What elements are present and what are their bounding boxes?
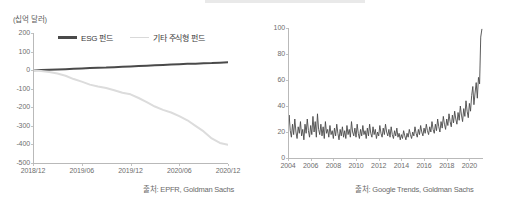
y-tick-label: 100	[261, 24, 285, 31]
x-tick-mark	[356, 159, 357, 161]
left-chart-svg	[33, 33, 228, 163]
x-axis-line	[288, 158, 483, 159]
y-tick-label: 0	[6, 66, 30, 73]
x-tick-mark	[228, 164, 229, 166]
y-tick-mark	[286, 132, 288, 133]
series-line	[288, 29, 482, 140]
x-tick-mark	[379, 159, 380, 161]
left-chart-source: 출처: EPFR, Goldman Sachs	[143, 183, 234, 194]
x-tick-label: 2020	[450, 162, 488, 169]
y-tick-label: 60	[261, 76, 285, 83]
series-line	[33, 62, 228, 70]
y-tick-label: 100	[6, 48, 30, 55]
y-tick-mark	[286, 106, 288, 107]
x-tick-label: 2020/12	[209, 167, 247, 174]
x-tick-mark	[311, 159, 312, 161]
x-tick-mark	[33, 164, 34, 166]
left-chart-axis-title: (십억 달러)	[13, 13, 47, 24]
y-tick-label: 40	[261, 102, 285, 109]
figure-container: (십억 달러) ESG 펀드 기타 주식형 펀드 2001000-100-200…	[0, 0, 518, 208]
x-tick-mark	[179, 164, 180, 166]
left-chart-plot-area	[33, 33, 228, 163]
y-tick-mark	[31, 33, 33, 34]
y-axis-line	[288, 28, 289, 159]
y-tick-label: -300	[6, 122, 30, 129]
series-line	[33, 70, 228, 145]
y-tick-label: 80	[261, 50, 285, 57]
y-tick-label: -400	[6, 140, 30, 147]
y-tick-mark	[31, 89, 33, 90]
panel-search-interest: 020406080100 200420062008201020122014201…	[259, 0, 518, 208]
y-axis-line	[33, 33, 34, 164]
x-tick-mark	[288, 159, 289, 161]
y-tick-mark	[31, 126, 33, 127]
y-tick-mark	[286, 54, 288, 55]
x-tick-label: 2020/06	[160, 167, 198, 174]
x-tick-label: 2018/12	[14, 167, 52, 174]
x-tick-mark	[333, 159, 334, 161]
y-tick-mark	[31, 52, 33, 53]
y-tick-mark	[286, 28, 288, 29]
right-chart-plot-area	[288, 28, 483, 158]
y-tick-label: -200	[6, 103, 30, 110]
y-tick-mark	[31, 107, 33, 108]
x-tick-mark	[401, 159, 402, 161]
x-tick-mark	[447, 159, 448, 161]
y-tick-label: -100	[6, 85, 30, 92]
y-tick-label: 20	[261, 128, 285, 135]
y-tick-mark	[286, 80, 288, 81]
panel-fund-flows: (십억 달러) ESG 펀드 기타 주식형 펀드 2001000-100-200…	[0, 0, 259, 208]
y-tick-label: 0	[261, 154, 285, 161]
y-tick-mark	[31, 144, 33, 145]
y-tick-label: 200	[6, 29, 30, 36]
x-tick-mark	[424, 159, 425, 161]
right-chart-svg	[288, 28, 483, 158]
right-chart-source: 출처: Google Trends, Goldman Sachs	[355, 183, 474, 194]
y-tick-label: -500	[6, 159, 30, 166]
x-tick-mark	[131, 164, 132, 166]
x-tick-mark	[469, 159, 470, 161]
y-tick-mark	[31, 70, 33, 71]
x-tick-label: 2019/12	[112, 167, 150, 174]
x-tick-label: 2019/06	[63, 167, 101, 174]
x-tick-mark	[82, 164, 83, 166]
